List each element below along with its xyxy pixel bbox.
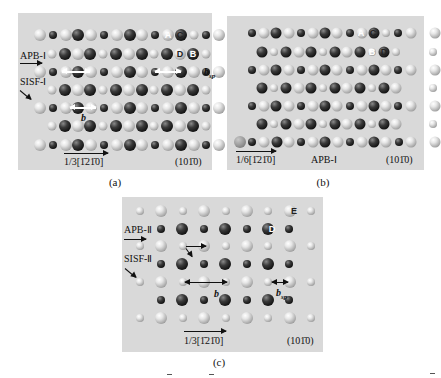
atom-label-d: D [381,47,388,57]
dark-atom [84,84,96,96]
light-atom [319,48,327,56]
light-atom [136,278,144,286]
dark-atom [161,120,173,132]
dark-atom [354,119,365,130]
dark-atom [369,65,380,76]
dark-atom [100,31,108,39]
dark-atom [110,48,122,60]
light-atom [34,102,46,114]
light-atom [332,65,343,76]
dark-atom [49,31,57,39]
light-atom [259,101,270,112]
dark-atom [202,104,210,112]
dark-atom [297,66,305,74]
light-atom [150,86,159,95]
sisf-ii-label: SISF-Ⅱ [124,254,152,264]
atom-label-d: D [269,224,276,234]
apb-ii-label: APB-Ⅱ [124,225,152,235]
dark-atom [262,258,274,270]
dark-atom [49,141,57,149]
light-atom [72,84,84,96]
dark-atom [243,260,251,268]
dark-atom [59,84,71,96]
b-arrow-a-right [82,107,96,109]
light-atom [136,29,148,41]
light-atom [357,137,368,148]
burgers-sp-arrow-c [272,282,288,283]
light-atom [307,314,315,322]
dark-atom [346,102,354,110]
dark-atom [271,101,282,112]
light-atom [382,29,390,37]
light-atom [213,29,225,41]
light-atom [307,207,315,215]
atom-label-d: D [177,49,184,59]
light-atom [188,139,200,151]
light-atom [381,137,392,148]
light-atom [179,314,187,322]
dark-atom [124,139,136,151]
light-atom [293,83,304,94]
shift-arrow-c [186,246,206,247]
dark-atom [176,258,188,270]
dark-atom [395,138,403,146]
light-atom [293,47,304,58]
light-atom [198,312,210,324]
dark-atom [320,137,331,148]
light-atom [99,86,108,95]
light-atom [284,240,296,252]
dark-atom [248,66,256,74]
light-atom [308,28,319,39]
dark-atom [49,104,57,112]
light-atom [319,120,327,128]
light-atom [356,101,367,112]
light-atom [201,86,210,95]
dark-atom [59,48,71,60]
dark-atom [320,101,331,112]
light-atom [241,205,253,217]
caption-overbar-fragment [167,374,172,375]
light-atom [213,139,225,151]
dark-atom [330,83,341,94]
light-atom [264,207,272,215]
dark-atom [124,66,136,78]
light-atom [283,28,294,39]
dark-atom [320,28,331,39]
light-atom [429,48,437,56]
burgers-sp-label-c: bsp [276,288,287,301]
b-arrow-a-left [70,107,82,109]
bsp-arrow-left [62,71,78,73]
dark-atom [257,83,268,94]
light-atom [189,31,198,40]
bsp-arrow-right [78,71,90,73]
light-atom [48,50,57,59]
dark-atom [330,47,341,58]
light-atom [213,102,225,114]
light-atom [111,66,123,78]
caption-overbar-fragment [209,374,214,375]
light-atom [222,207,230,215]
light-atom [259,137,270,148]
dark-atom [100,104,108,112]
light-atom [34,139,46,151]
light-atom [150,122,159,131]
dark-atom [124,29,136,41]
dark-atom [110,120,122,132]
light-atom [368,84,376,92]
light-atom [198,205,210,217]
light-atom [264,314,272,322]
dark-atom [157,296,165,304]
light-atom [429,84,437,92]
atom-label-c: C [370,28,377,38]
atom-label-b: B [369,47,376,57]
light-atom [391,119,402,130]
dark-atom [285,225,293,233]
light-atom [123,120,135,132]
light-atom [136,66,148,78]
atom-label-a: A [165,30,172,40]
light-atom [405,101,416,112]
dark-atom [369,101,380,112]
caption-overbar-fragment [430,373,435,374]
dark-atom [281,47,292,58]
light-atom [155,205,167,217]
